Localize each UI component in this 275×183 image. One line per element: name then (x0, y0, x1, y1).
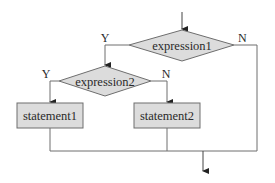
edge-d1-no-label: N (238, 31, 247, 45)
edge-d1-yes-label: Y (101, 31, 110, 45)
decision-expression2-label: expression2 (75, 75, 135, 89)
edge-d1-yes (105, 45, 129, 65)
edge-d2-yes-label: Y (42, 67, 51, 81)
edge-d2-no (151, 81, 167, 102)
edge-d1-no (234, 45, 257, 151)
flowchart: expression1 Y N expression2 Y N statemen… (0, 0, 275, 183)
decision-expression1-label: expression1 (152, 39, 212, 53)
edge-d2-no-label: N (162, 67, 171, 81)
edge-d2-yes (50, 81, 59, 102)
process-statement2-label: statement2 (140, 109, 194, 123)
process-statement1-label: statement1 (23, 109, 77, 123)
